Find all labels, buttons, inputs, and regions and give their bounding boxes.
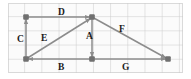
vector-label-G: G [122, 62, 130, 72]
node-bottom-left [23, 56, 29, 62]
vector-E-arrow [26, 19, 91, 60]
node-top-left [23, 14, 29, 20]
vector-layer [0, 0, 191, 79]
vector-label-D: D [58, 7, 65, 17]
node-apex [89, 14, 95, 20]
vector-label-F: F [119, 24, 125, 34]
diagram-root: A B C D E F G [0, 0, 191, 79]
vector-label-A: A [86, 31, 93, 41]
vector-label-E: E [41, 33, 48, 43]
vector-label-C: C [17, 34, 24, 44]
node-bottom-middle [89, 56, 95, 62]
vector-F-arrow [92, 17, 166, 58]
node-bottom-right [165, 56, 171, 62]
vector-label-B: B [58, 62, 65, 72]
